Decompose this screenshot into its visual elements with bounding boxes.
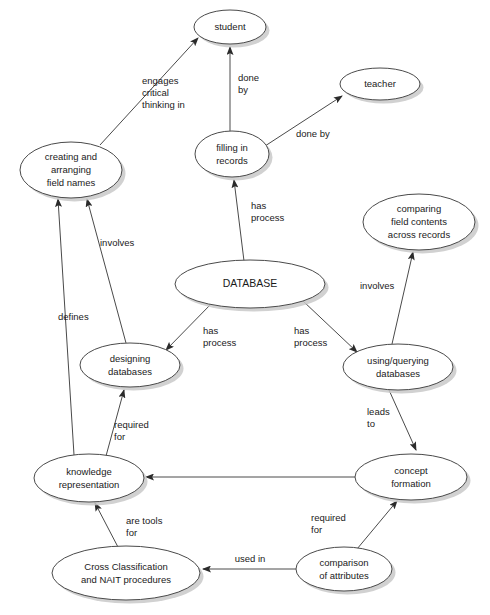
node-label-line: databases (376, 367, 420, 378)
edge-label-line: required (311, 512, 346, 523)
edge-label-line: leads (367, 406, 390, 417)
edge-label-comparison-required-for-concept: requiredfor (311, 512, 346, 535)
edge-label-line: are tools (126, 515, 163, 526)
node-label-line: concept (394, 464, 428, 475)
node-designing-databases[interactable]: designingdatabases (80, 343, 184, 391)
edge-label-knowledge-required-for-designing: requiredfor (114, 419, 149, 442)
node-using-querying-databases[interactable]: using/queryingdatabases (343, 344, 457, 394)
edge-label-line: has (294, 325, 310, 336)
node-label-line: comparison (319, 556, 368, 567)
edge-label-line: for (311, 524, 322, 535)
node-label-line: arranging (51, 164, 91, 175)
edge-line (87, 199, 126, 343)
node-label-comparing-field-contents-across-records: comparingfield contentsacross records (388, 203, 451, 240)
node-student[interactable]: student (194, 10, 270, 48)
edge-label-database-has-process-using: hasprocess (294, 325, 328, 348)
node-comparing-field-contents-across-records[interactable]: comparingfield contentsacross records (363, 194, 479, 254)
edge-label-line: has (251, 200, 267, 211)
edge-label-filling-done-by-student: doneby (238, 72, 259, 95)
node-label-line: of attributes (319, 569, 369, 580)
edge-label-comparison-used-in-cross: used in (235, 553, 266, 564)
node-label-line: filling in (216, 141, 248, 152)
edge-using-involves-comparing (392, 252, 413, 344)
edge-label-line: defines (58, 311, 89, 322)
node-creating-and-arranging-field-names[interactable]: creating andarrangingfield names (20, 142, 126, 202)
edge-line (234, 180, 244, 261)
node-teacher[interactable]: teacher (340, 68, 424, 104)
node-filling-in-records[interactable]: filling inrecords (195, 131, 273, 181)
edge-label-line: involves (360, 280, 395, 291)
edge-label-cross-are-tools-for-knowledge: are toolsfor (126, 515, 163, 538)
edge-label-line: engages (142, 75, 179, 86)
edge-label-line: process (251, 212, 285, 223)
node-knowledge-representation[interactable]: knowledgerepresentation (34, 454, 148, 506)
node-label-student: student (214, 21, 246, 32)
edge-label-line: required (114, 419, 149, 430)
node-label-line: databases (108, 365, 152, 376)
node-label-line: field contents (391, 216, 447, 227)
concept-map-canvas: studentteacherfilling inrecordscreating … (0, 0, 490, 615)
node-concept-formation[interactable]: conceptformation (355, 454, 471, 504)
node-label-line: teacher (364, 78, 396, 89)
edge-label-line: process (203, 337, 237, 348)
node-label-line: knowledge (66, 465, 111, 476)
node-label-line: creating and (45, 151, 97, 162)
edge-label-line: by (238, 84, 248, 95)
edge-label-line: for (114, 431, 125, 442)
edge-label-creating-engages-student: engagescriticalthinking in (142, 75, 185, 110)
node-label-line: and NAIT procedures (81, 573, 171, 584)
edge-line (389, 390, 416, 450)
edge-label-line: to (367, 418, 375, 429)
edge-label-line: for (126, 527, 137, 538)
edge-label-line: critical (142, 87, 169, 98)
edge-label-filling-done-by-teacher: done by (296, 128, 330, 139)
edge-label-designing-involves-creating: involves (100, 237, 135, 248)
node-label-creating-and-arranging-field-names: creating andarrangingfield names (45, 151, 97, 188)
edge-line (95, 503, 119, 549)
node-label-line: comparing (397, 203, 441, 214)
edge-label-knowledge-defines-creating: defines (58, 311, 89, 322)
nodes-layer: studentteacherfilling inrecordscreating … (20, 10, 479, 604)
edge-line (392, 252, 413, 344)
node-label-database: DATABASE (223, 277, 277, 289)
edge-label-using-leads-to-concept: leadsto (367, 406, 390, 429)
edge-cross-are-tools-for-knowledge (95, 503, 119, 549)
node-label-line: representation (59, 478, 120, 489)
edge-label-line: process (294, 337, 328, 348)
node-label-line: Cross Classification (84, 560, 167, 571)
edge-label-database-has-process-filling: hasprocess (251, 200, 285, 223)
node-label-line: records (216, 154, 248, 165)
edge-label-line: has (203, 325, 219, 336)
edge-label-database-has-process-designing: hasprocess (203, 325, 237, 348)
edge-label-line: done (238, 72, 259, 83)
edge-label-line: thinking in (142, 99, 185, 110)
node-label-line: DATABASE (223, 277, 277, 289)
edge-label-line: involves (100, 237, 135, 248)
edge-label-using-involves-comparing: involves (360, 280, 395, 291)
edge-knowledge-defines-creating (58, 199, 74, 455)
edge-line (357, 501, 397, 549)
node-label-line: formation (391, 477, 431, 488)
node-cross-classification-and-nait-procedures[interactable]: Cross Classificationand NAIT procedures (52, 546, 204, 604)
concept-map-svg: studentteacherfilling inrecordscreating … (0, 0, 490, 615)
node-label-line: using/querying (367, 354, 429, 365)
node-label-line: student (214, 21, 246, 32)
node-database[interactable]: DATABASE (175, 260, 329, 312)
edge-comparison-required-for-concept (357, 501, 397, 549)
edge-label-line: used in (235, 553, 266, 564)
node-label-line: designing (110, 352, 151, 363)
node-comparison-of-attributes[interactable]: comparisonof attributes (296, 547, 396, 595)
node-label-line: across records (388, 229, 451, 240)
edge-designing-involves-creating (87, 199, 126, 343)
node-label-teacher: teacher (364, 78, 396, 89)
edge-database-has-process-filling (234, 180, 244, 261)
edge-line (58, 199, 74, 455)
node-label-line: field names (47, 177, 96, 188)
edge-label-line: done by (296, 128, 330, 139)
edge-using-leads-to-concept (389, 390, 416, 450)
